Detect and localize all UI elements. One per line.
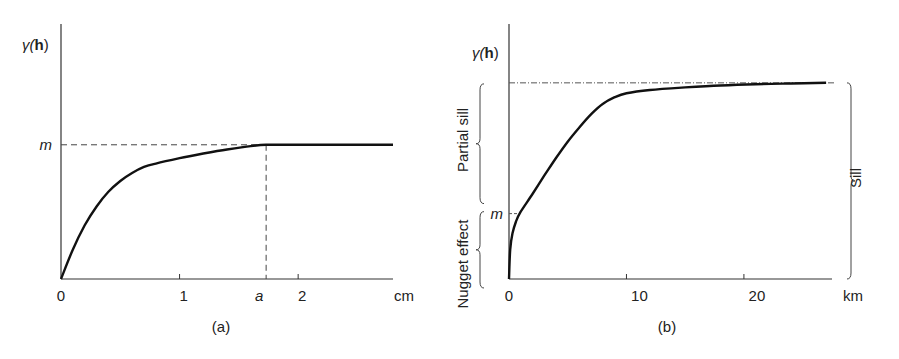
panel-b: γ(h) 01020 m km (b) Partial sill Nugget … [454,24,864,335]
x-tick-label-b: 20 [749,287,766,304]
nugget-effect-label: Nugget effect [454,219,471,309]
nugget-label-m-b: m [491,205,504,222]
sill-label: Sill [847,168,864,188]
x-tick-label-a: 0 [57,287,65,304]
panel-label-b: (b) [658,318,676,335]
variogram-curve-b [509,83,826,279]
panel-a: γ(h) 012 m a cm (a) [22,24,414,335]
y-axis-label-b: γ(h) [472,44,499,61]
sill-label-m-a: m [40,136,53,153]
partial-sill-label: Partial sill [454,108,471,172]
x-unit-a: cm [394,287,414,304]
x-tick-label-a: 1 [179,287,187,304]
x-tick-label-b: 0 [505,287,513,304]
x-tick-label-b: 10 [631,287,648,304]
figure: γ(h) 012 m a cm (a) γ(h) 01020 m km (b) … [0,0,899,359]
nugget-effect-brace [476,212,484,288]
x-tick-label-a: 2 [298,287,306,304]
y-axis-label-a: γ(h) [22,36,49,53]
variogram-curve-a [61,145,393,279]
partial-sill-brace [476,84,484,204]
panel-label-a: (a) [212,318,230,335]
x-unit-b: km [843,287,863,304]
range-label-a: a [255,287,263,304]
